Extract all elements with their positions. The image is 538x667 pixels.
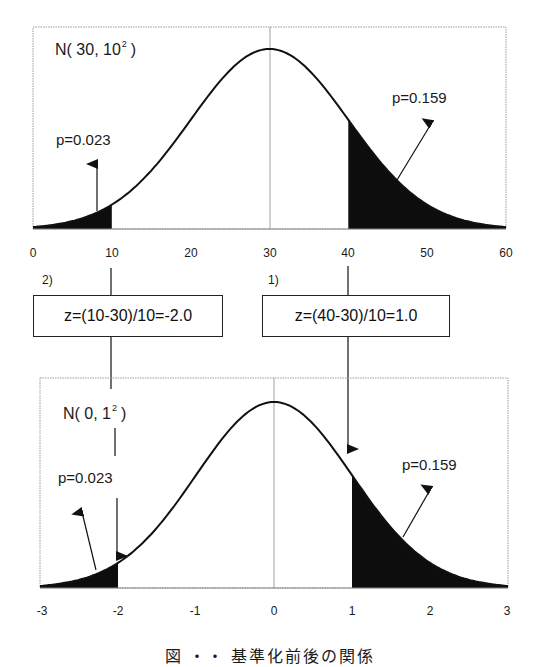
top-tick: 30 [263, 246, 276, 260]
top-dist-close: ) [131, 41, 136, 58]
bottom-tick: 0 [271, 604, 278, 618]
right-z-formula: z=(40-30)/10=1.0 [295, 307, 418, 325]
top-dist-name: N( 30, 10 [55, 41, 121, 58]
bottom-distribution-label: N( 0, 12) [63, 403, 126, 423]
right-z-formula-box: z=(40-30)/10=1.0 [262, 295, 450, 337]
bottom-right-tail-fill [352, 475, 508, 588]
bottom-tick: -1 [190, 604, 201, 618]
bottom-tick: 3 [504, 604, 511, 618]
bottom-dist-close: ) [121, 405, 126, 422]
figure-caption: 図 ・・ 基準化前後の関係 [165, 643, 376, 667]
top-right-tail-fill [348, 120, 506, 229]
top-tick: 20 [184, 246, 197, 260]
right-step-label: 1) [268, 273, 279, 287]
bottom-tick: -3 [37, 604, 48, 618]
left-step-label: 2) [42, 273, 53, 287]
bottom-tick: -2 [113, 604, 124, 618]
top-right-arrow [397, 124, 431, 180]
bottom-tick: 2 [427, 604, 434, 618]
top-tick: 10 [105, 246, 118, 260]
bottom-left-arrow [82, 512, 96, 570]
top-tick: 60 [499, 246, 512, 260]
top-tick: 40 [341, 246, 354, 260]
bottom-dist-exponent: 2 [112, 403, 117, 413]
top-tick: 0 [30, 246, 37, 260]
top-distribution-label: N( 30, 102) [55, 39, 136, 59]
left-z-formula-box: z=(10-30)/10=-2.0 [33, 295, 223, 337]
left-z-formula: z=(10-30)/10=-2.0 [64, 307, 192, 325]
top-right-p-label: p=0.159 [392, 89, 447, 106]
bottom-right-p-label: p=0.159 [402, 456, 457, 473]
bottom-dist-name: N( 0, 1 [63, 405, 111, 422]
top-tick: 50 [420, 246, 433, 260]
top-left-p-label: p=0.023 [56, 131, 111, 148]
bottom-tick: 1 [349, 604, 356, 618]
bottom-left-p-label: p=0.023 [58, 469, 113, 486]
bottom-right-arrow [403, 490, 430, 537]
top-dist-exponent: 2 [122, 39, 127, 49]
